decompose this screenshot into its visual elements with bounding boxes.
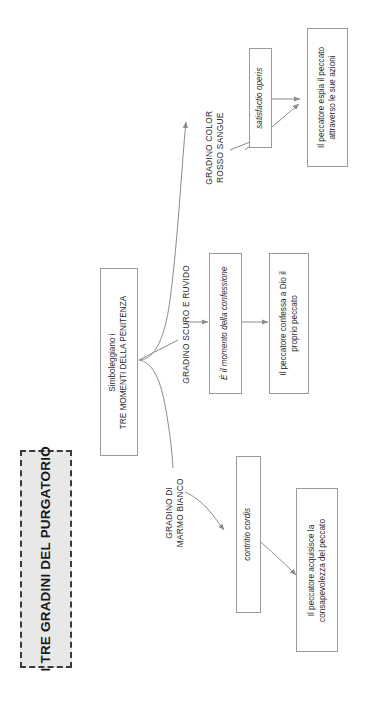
- outcome-text-scuro-ruvido: Il peccatore confessa a Dio il proprio p…: [279, 271, 300, 376]
- root-node: Simboleggiano i TRE MOMENTI DELLA PENITE…: [100, 268, 138, 456]
- step-label-marmo-bianco-text: GRADINO DI MARMO BIANCO: [163, 479, 185, 548]
- step-label-rosso-sangue-text: GRADINO COLOR ROSSO SANGUE: [204, 111, 226, 185]
- latin-term-satisfactio-operis: satisfactio operis: [255, 68, 266, 129]
- marmo-label-line-2: MARMO BIANCO: [174, 479, 184, 548]
- diagram-title-box: I TRE GRADINI DEL PURGATORIO: [20, 450, 72, 668]
- marmo-outcome-line-1: Il peccatore acquisisce la: [307, 524, 316, 615]
- diagram-title: I TRE GRADINI DEL PURGATORIO: [37, 446, 55, 671]
- connector-root-to-marmo: [139, 360, 173, 468]
- marmo-label-line-1: GRADINO DI: [163, 487, 173, 539]
- root-node-text: Simboleggiano i TRE MOMENTI DELLA PENITE…: [109, 295, 130, 428]
- rosso-label-line-1: GRADINO COLOR: [204, 111, 214, 185]
- latin-term-confessione: È il momento della confessione: [220, 267, 231, 380]
- marmo-outcome-line-2: consapevolezza del peccato: [317, 519, 326, 622]
- step-label-marmo-bianco: GRADINO DI MARMO BIANCO: [155, 458, 193, 568]
- scuro-outcome-line-2: proprio peccato: [289, 295, 298, 351]
- latin-term-box-satisfactio-operis: satisfactio operis: [249, 48, 272, 148]
- root-line-2: TRE MOMENTI DELLA PENITENZA: [119, 295, 128, 428]
- diagram-canvas: I TRE GRADINI DEL PURGATORIO Simboleggia…: [0, 0, 379, 713]
- step-label-scuro-ruvido: GRADINO SCURO E RUVIDO: [172, 265, 200, 383]
- rosso-outcome-line-2: attraverso le sue azioni: [328, 55, 337, 139]
- latin-term-box-confessione: È il momento della confessione: [209, 253, 242, 394]
- outcome-box-scuro-ruvido: Il peccatore confessa a Dio il proprio p…: [269, 253, 309, 394]
- outcome-box-rosso-sangue: Il peccatore espia il peccato attraverso…: [307, 28, 348, 167]
- step-label-rosso-sangue: GRADINO COLOR ROSSO SANGUE: [196, 88, 234, 208]
- latin-term-box-contritio-cordis: contritio cordis: [236, 456, 261, 613]
- scuro-outcome-line-1: Il peccatore confessa a Dio il: [279, 271, 288, 376]
- outcome-text-rosso-sangue: Il peccatore espia il peccato attraverso…: [317, 47, 338, 148]
- outcome-box-marmo-bianco: Il peccatore acquisisce la consapevolezz…: [296, 488, 338, 652]
- step-label-scuro-ruvido-text: GRADINO SCURO E RUVIDO: [181, 265, 192, 384]
- outcome-text-marmo-bianco: Il peccatore acquisisce la consapevolezz…: [307, 519, 328, 622]
- rosso-outcome-line-1: Il peccatore espia il peccato: [317, 47, 326, 148]
- latin-term-contritio-cordis: contritio cordis: [243, 508, 254, 561]
- scuro-label-line-1: GRADINO SCURO E RUVIDO: [181, 265, 191, 384]
- rosso-label-line-2: ROSSO SANGUE: [215, 113, 225, 183]
- root-line-1: Simboleggiano i: [109, 333, 118, 391]
